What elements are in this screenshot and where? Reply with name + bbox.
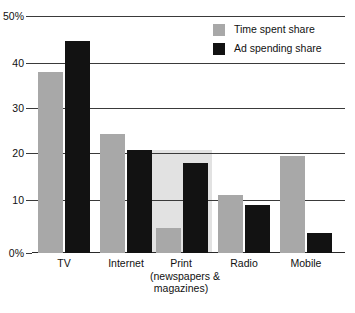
x-axis-label-mobile-text: Mobile (291, 257, 322, 269)
x-axis-label-radio: Radio (218, 257, 270, 270)
bar-radio-time-spent-share (218, 195, 243, 253)
legend-swatch-icon-ad-spending-share (213, 43, 225, 55)
x-axis-label-tv: TV (38, 257, 90, 270)
y-axis-label-40: 40 (12, 58, 24, 69)
x-axis-label-print-sub2: magazines) (150, 282, 212, 295)
y-axis-label-50: 50% (3, 11, 24, 22)
legend-swatch-icon-time-spent-share (213, 24, 225, 36)
bar-radio-ad-spending-share (245, 205, 270, 253)
x-axis-label-print: Print (newspapers & magazines) (150, 257, 212, 295)
y-axis-label-20: 20 (12, 148, 24, 159)
bar-internet-ad-spending-share (127, 150, 152, 253)
y-axis-label-0: 0% (9, 248, 24, 259)
chart-legend: Time spent share Ad spending share (213, 22, 322, 60)
x-axis-label-mobile: Mobile (280, 257, 332, 270)
legend-label-time-spent-share: Time spent share (234, 24, 315, 35)
bar-mobile-time-spent-share (280, 156, 305, 253)
x-axis-label-print-sub1: (newspapers & (150, 270, 212, 283)
legend-item-ad-spending-share: Ad spending share (213, 41, 322, 56)
bar-print-ad-spending-share (183, 163, 208, 253)
x-axis-label-radio-text: Radio (230, 257, 257, 269)
x-axis-label-print-text: Print (170, 257, 192, 269)
x-axis-label-internet: Internet (100, 257, 152, 270)
y-axis-label-10: 10 (12, 195, 24, 206)
legend-label-ad-spending-share: Ad spending share (234, 43, 322, 54)
y-axis-tick-0 (26, 253, 32, 254)
bar-tv-time-spent-share (38, 72, 63, 253)
gridline-50 (32, 16, 345, 17)
x-axis-label-internet-text: Internet (108, 257, 144, 269)
bar-chart: 50% 40 30 20 10 0% (0, 0, 355, 313)
x-axis-label-tv-text: TV (57, 257, 70, 269)
legend-item-time-spent-share: Time spent share (213, 22, 322, 37)
y-axis-label-30: 30 (12, 103, 24, 114)
bar-mobile-ad-spending-share (307, 233, 332, 253)
bar-internet-time-spent-share (100, 134, 125, 253)
bar-print-time-spent-share (156, 228, 181, 253)
bar-tv-ad-spending-share (65, 41, 90, 253)
